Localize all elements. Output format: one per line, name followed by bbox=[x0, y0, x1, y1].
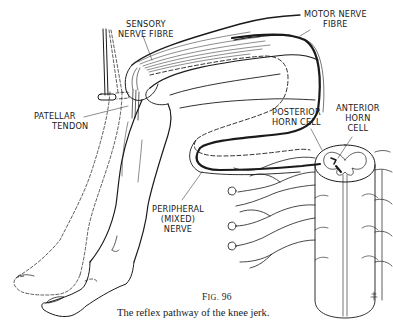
label-line: HORN CELL bbox=[272, 117, 321, 127]
label-posterior-horn-cell: POSTERIOR HORN CELL bbox=[272, 107, 321, 127]
label-line: PERIPHERAL bbox=[152, 204, 204, 214]
label-motor-nerve-fibre: MOTOR NERVE FIBRE bbox=[304, 9, 367, 29]
figure-number-smallcaps: IG. bbox=[208, 293, 219, 302]
label-line: MOTOR NERVE bbox=[304, 9, 367, 19]
diagram-illustration bbox=[0, 0, 393, 331]
figure-number-value: 96 bbox=[222, 292, 232, 302]
label-anterior-horn-cell: ANTERIOR HORN CELL bbox=[336, 103, 380, 133]
label-patellar-tendon: PATELLAR TENDON bbox=[34, 111, 88, 131]
label-line: SENSORY bbox=[118, 19, 174, 29]
label-line: TENDON bbox=[34, 121, 88, 131]
label-sensory-nerve-fibre: SENSORY NERVE FIBRE bbox=[118, 19, 174, 39]
label-line: PATELLAR bbox=[34, 111, 88, 121]
label-peripheral-mixed-nerve: PERIPHERAL (MIXED) NERVE bbox=[152, 204, 204, 234]
figure-number: FIG. 96 bbox=[202, 292, 232, 302]
figure-caption: The reflex pathway of the knee jerk. bbox=[117, 307, 269, 318]
label-line: HORN bbox=[336, 113, 380, 123]
label-line: NERVE bbox=[152, 224, 204, 234]
label-line: ANTERIOR bbox=[336, 103, 380, 113]
label-line: FIBRE bbox=[304, 19, 367, 29]
reflex-hammer-icon bbox=[98, 29, 129, 100]
label-line: NERVE FIBRE bbox=[118, 29, 174, 39]
label-line: CELL bbox=[336, 123, 380, 133]
spinal-cord bbox=[315, 145, 392, 318]
label-line: POSTERIOR bbox=[272, 107, 321, 117]
knee-jerk-reflex-diagram: SENSORY NERVE FIBRE MOTOR NERVE FIBRE PA… bbox=[0, 0, 393, 331]
label-line: (MIXED) bbox=[152, 214, 204, 224]
